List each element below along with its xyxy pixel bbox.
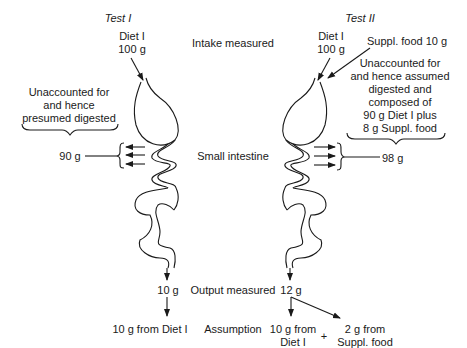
test1-title: Test I (92, 12, 144, 24)
test1-input-amount: 100 g (112, 43, 152, 55)
stage-small-intestine: Small intestine (190, 150, 276, 162)
test2-unaccounted-1: and hence assumed (342, 70, 458, 82)
test2-title: Test II (334, 12, 386, 24)
test2-unaccounted-0: Unaccounted for (342, 57, 458, 69)
test1-unaccounted-1: and hence (14, 99, 124, 111)
stage-output: Output measured (186, 284, 280, 296)
test1-input-label: Diet I (112, 30, 152, 42)
test2-assumption-a-1: Diet I (268, 336, 318, 348)
test2-unaccounted-2: digested and (342, 83, 458, 95)
test2-assumption-b-0: 2 g from (330, 323, 400, 335)
intake-arrow-test1 (131, 58, 143, 80)
stomach-test1 (134, 78, 178, 145)
test2-output-amount: 12 g (276, 284, 306, 296)
test1-output-amount: 10 g (152, 284, 184, 296)
test2-digested-amount: 98 g (382, 152, 403, 164)
test2-suppl-input: Suppl. food 10 g (367, 35, 447, 47)
stage-assumption: Assumption (198, 323, 268, 335)
test2-assumption-a-0: 10 g from (268, 323, 318, 335)
test2-unaccounted-3: composed of (342, 96, 458, 108)
test1-unaccounted-2: presumed digested (14, 112, 124, 124)
stage-intake: Intake measured (190, 37, 276, 49)
plus-sign: + (318, 330, 330, 342)
test2-input-label: Diet I (311, 30, 351, 42)
test1-unaccounted-0: Unaccounted for (14, 86, 124, 98)
test2-input-amount: 100 g (311, 43, 351, 55)
test2-unaccounted-4: 90 g Diet I plus (342, 109, 458, 121)
test2-assumption-b-1: Suppl. food (330, 336, 400, 348)
test1-digested-amount: 90 g (56, 150, 84, 162)
test2-unaccounted-5: 8 g Suppl. food (342, 122, 458, 134)
test1-assumption: 10 g from Diet I (108, 323, 192, 335)
